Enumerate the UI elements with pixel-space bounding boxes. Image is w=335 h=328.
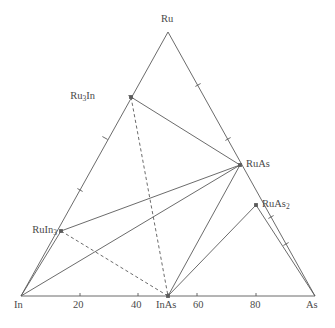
tie-line-6 <box>256 205 315 296</box>
edge-tick-6 <box>283 243 288 246</box>
phase-point-marker <box>129 95 133 99</box>
triangle-edge-in-ru <box>21 32 168 296</box>
diagram-canvas <box>0 0 335 328</box>
phase-label-ru3in: Ru3In <box>70 91 95 102</box>
axis-tick-label-80: 80 <box>250 300 261 311</box>
edge-tick-0 <box>102 137 107 140</box>
tie-line-5 <box>21 231 61 296</box>
phase-label-ruin3: RuIn3 <box>32 225 57 236</box>
tie-line-3 <box>168 165 240 296</box>
ternary-diagram-figure: Ru In As 20 40 60 80 Ru3In RuAs RuAs2 Ru… <box>0 0 335 328</box>
phase-label-ruas2: RuAs2 <box>262 199 290 210</box>
axis-tick-label-40: 40 <box>131 300 142 311</box>
tie-line-1 <box>61 165 240 231</box>
phase-point-marker <box>238 163 242 167</box>
phase-label-ruas: RuAs <box>246 159 270 170</box>
edge-tick-5 <box>268 216 273 219</box>
phase-label-inas: InAs <box>156 300 176 311</box>
axis-tick-label-60: 60 <box>193 300 204 311</box>
dashed-tie-line-1 <box>61 231 168 296</box>
corner-label-ru: Ru <box>161 14 173 25</box>
tie-line-4 <box>168 205 256 296</box>
phase-point-marker <box>59 229 63 233</box>
corner-label-as: As <box>306 300 318 311</box>
tie-line-0 <box>131 97 240 165</box>
axis-tick-label-20: 20 <box>73 300 84 311</box>
phase-point-marker <box>254 203 258 207</box>
phase-point-marker <box>166 294 170 298</box>
corner-label-in: In <box>14 300 23 311</box>
edge-tick-1 <box>77 189 82 192</box>
dashed-tie-line-0 <box>131 97 168 296</box>
